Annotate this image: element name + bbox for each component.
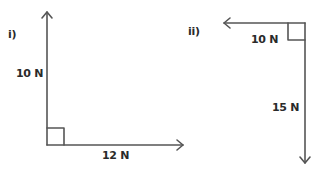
diagram-canvas <box>0 0 311 170</box>
force-label: 10 N <box>16 67 43 80</box>
force-label: 15 N <box>272 101 299 114</box>
diagram-label: ii) <box>188 25 200 38</box>
diagram-i <box>42 12 183 150</box>
force-diagrams: i) 10 N 12 N ii) 10 N 15 N <box>0 0 311 170</box>
force-label: 12 N <box>102 149 129 162</box>
right-angle-marker <box>47 128 64 145</box>
force-label: 10 N <box>251 33 278 46</box>
right-angle-marker <box>288 23 305 40</box>
diagram-label: i) <box>8 28 16 41</box>
